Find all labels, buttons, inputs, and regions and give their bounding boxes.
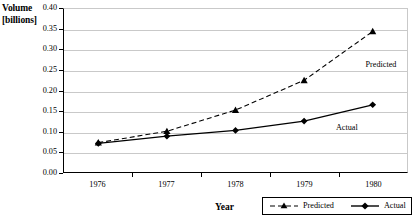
data-point-diamond xyxy=(369,101,376,108)
y-tick-label: 0.30 xyxy=(27,45,57,53)
y-tick-label: 0.20 xyxy=(27,87,57,95)
y-tick-label: 0.05 xyxy=(27,148,57,156)
x-tick-label: 1978 xyxy=(216,181,256,189)
plot-area xyxy=(63,8,408,173)
y-tick-label: 0.15 xyxy=(27,107,57,115)
line-chart: Volume [billions] 0.000.050.100.150.200.… xyxy=(0,0,415,224)
data-point-diamond xyxy=(232,127,239,134)
data-point-triangle xyxy=(369,28,376,34)
x-tick-mark xyxy=(132,173,133,177)
legend-item: Predicted xyxy=(269,201,334,211)
series-line-predicted xyxy=(98,31,372,142)
y-tick-label: 0.10 xyxy=(27,128,57,136)
x-tick-label: 1976 xyxy=(78,181,118,189)
x-tick-label: 1979 xyxy=(285,181,325,189)
y-tick-label: 0.00 xyxy=(27,169,57,177)
y-tick-mark xyxy=(59,173,63,174)
data-series-layer xyxy=(64,9,407,172)
x-tick-mark xyxy=(270,173,271,177)
annotation-predicted: Predicted xyxy=(366,61,397,69)
x-tick-mark xyxy=(339,173,340,177)
x-tick-label: 1980 xyxy=(354,181,394,189)
triangle-marker-icon xyxy=(269,201,299,211)
diamond-marker-icon xyxy=(350,201,380,211)
legend-label: Predicted xyxy=(303,202,334,210)
legend-label: Actual xyxy=(384,202,406,210)
x-axis-title: Year xyxy=(215,203,234,213)
data-point-diamond xyxy=(95,140,102,147)
y-tick-label: 0.35 xyxy=(27,25,57,33)
data-point-diamond xyxy=(301,118,308,125)
y-tick-label: 0.25 xyxy=(27,66,57,74)
x-tick-mark xyxy=(201,173,202,177)
annotation-actual: Actual xyxy=(336,124,358,132)
legend-item: Actual xyxy=(350,201,406,211)
chart-legend: PredictedActual xyxy=(262,197,412,215)
data-point-triangle xyxy=(301,77,308,83)
x-tick-label: 1977 xyxy=(147,181,187,189)
data-point-triangle xyxy=(232,107,239,113)
y-tick-label: 0.40 xyxy=(27,4,57,12)
